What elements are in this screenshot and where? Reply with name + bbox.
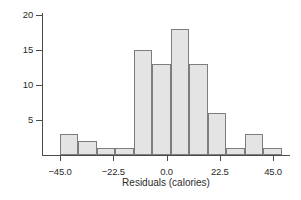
histogram-bar — [263, 148, 281, 155]
histogram-bar — [208, 113, 226, 155]
histogram-bar — [115, 148, 133, 155]
histogram-bar — [78, 141, 96, 155]
histogram-bar — [171, 29, 189, 155]
histogram-bar — [97, 148, 115, 155]
histogram-bar — [226, 148, 244, 155]
plot-area: 5101520 −45.0−22.50.022.545.0 Residuals … — [0, 0, 301, 200]
histogram-bars — [0, 0, 301, 200]
histogram-bar — [152, 64, 170, 155]
histogram-figure: 5101520 −45.0−22.50.022.545.0 Residuals … — [0, 0, 301, 200]
histogram-bar — [60, 134, 78, 155]
histogram-bar — [245, 134, 263, 155]
x-axis-label: Residuals (calories) — [42, 177, 290, 188]
histogram-bar — [134, 50, 152, 155]
histogram-bar — [189, 64, 207, 155]
